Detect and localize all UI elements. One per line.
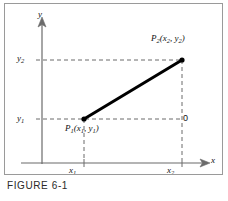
point-label-p2: P2(x2, y2) — [151, 34, 185, 44]
p1-coords-mid: , y — [84, 123, 93, 133]
coordinate-plane-graphic — [5, 4, 222, 174]
segment-p1-p2 — [84, 60, 182, 119]
p2-coords-close: ) — [182, 33, 185, 43]
plot-frame: y x y2 y1 x1 x2 P2(x2, y2) P1(x1, y1) 0 — [4, 3, 223, 175]
y-axis-label: y — [38, 10, 42, 19]
x-tick-label-x1: x1 — [69, 166, 76, 175]
x-tick-label-x2: x2 — [167, 166, 174, 175]
figure-caption: FIGURE 6-1 — [7, 180, 68, 191]
x-axis-label: x — [211, 156, 215, 165]
p2-coords-mid: , y — [170, 33, 179, 43]
figure-container: y x y2 y1 x1 x2 P2(x2, y2) P1(x1, y1) 0 … — [0, 0, 228, 201]
p2-coords-open: (x — [160, 33, 167, 43]
point-p1-marker — [81, 116, 86, 121]
x1-subscript: 1 — [73, 169, 76, 175]
point-p2-marker — [179, 57, 184, 62]
y2-subscript: 2 — [21, 57, 24, 64]
y1-subscript: 1 — [21, 117, 24, 124]
point-label-p1: P1(x1, y1) — [65, 124, 99, 134]
y-tick-label-y1: y1 — [17, 114, 24, 124]
p1-coords-open: (x — [74, 123, 81, 133]
y-axis — [38, 17, 46, 164]
p1-coords-close: ) — [96, 123, 99, 133]
origin-zero-label: 0 — [183, 114, 188, 123]
y-tick-label-y2: y2 — [17, 54, 24, 64]
x2-subscript: 2 — [171, 169, 174, 175]
